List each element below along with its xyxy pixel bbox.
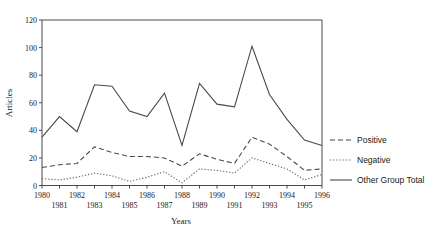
legend-label-other-group-total: Other Group Total	[357, 175, 425, 185]
plot-frame	[42, 20, 322, 186]
y-tick-label: 60	[29, 99, 37, 108]
series-line-positive	[42, 137, 322, 170]
y-tick-label: 100	[25, 44, 37, 53]
x-axis-title: Years	[171, 216, 192, 226]
x-tick-label: 1989	[192, 201, 208, 210]
y-axis: 020406080100120	[25, 16, 42, 191]
series-lines	[42, 46, 322, 183]
y-axis-title: Articles	[4, 88, 14, 117]
x-tick-label: 1987	[157, 201, 173, 210]
series-line-other-group-total	[42, 46, 322, 145]
x-tick-label: 1981	[52, 201, 68, 210]
chart-figure: 020406080100120 198019811982198319841985…	[0, 0, 434, 241]
series-line-negative	[42, 158, 322, 183]
x-axis: 1980198119821983198419851986198719881989…	[34, 186, 330, 210]
x-tick-label: 1988	[174, 191, 190, 200]
y-tick-label: 0	[33, 182, 37, 191]
x-tick-label: 1986	[139, 191, 155, 200]
x-tick-label: 1985	[122, 201, 138, 210]
y-tick-label: 40	[29, 126, 37, 135]
legend-label-positive: Positive	[357, 135, 387, 145]
y-tick-label: 80	[29, 71, 37, 80]
x-tick-label: 1993	[262, 201, 278, 210]
y-tick-label: 20	[29, 154, 37, 163]
line-chart-svg: 020406080100120 198019811982198319841985…	[0, 0, 434, 241]
x-tick-label: 1982	[69, 191, 85, 200]
legend-label-negative: Negative	[357, 155, 391, 165]
x-tick-label: 1990	[209, 191, 225, 200]
y-tick-label: 120	[25, 16, 37, 25]
x-tick-label: 1994	[279, 191, 295, 200]
chart-legend: PositiveNegativeOther Group Total	[330, 135, 425, 185]
x-tick-label: 1980	[34, 191, 50, 200]
x-tick-label: 1984	[104, 191, 120, 200]
x-tick-label: 1991	[227, 201, 243, 210]
x-tick-label: 1995	[297, 201, 313, 210]
x-tick-label: 1992	[244, 191, 260, 200]
x-tick-label: 1996	[314, 191, 330, 200]
x-tick-label: 1983	[87, 201, 103, 210]
